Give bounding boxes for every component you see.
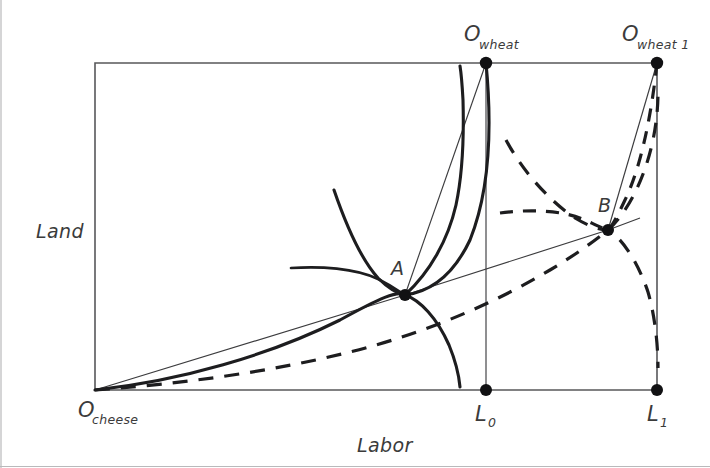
tick-l1-symbol: L xyxy=(647,402,659,426)
point-a-label: A xyxy=(389,257,404,279)
edgeworth-box-figure: Land Labor O cheese O wheat O wheat 1 L … xyxy=(0,0,710,468)
ray-owheat1-to-b xyxy=(608,63,657,230)
cheese-isoquant-a xyxy=(95,66,463,390)
ray-owheat-to-a xyxy=(405,63,486,295)
tick-l0-subscript: 0 xyxy=(488,415,496,430)
owheat-node-dot xyxy=(480,57,492,69)
tick-l0-symbol: L xyxy=(475,402,487,426)
wheat-isoquant-b xyxy=(506,140,658,368)
l0-node-dot xyxy=(480,384,492,396)
y-axis-label: Land xyxy=(36,220,84,242)
cheese-isoquant-a-left-branch xyxy=(291,267,405,295)
edgeworth-box-outline xyxy=(95,63,657,390)
x-axis-label: Labor xyxy=(357,434,414,456)
origin-cheese-subscript: cheese xyxy=(92,412,138,427)
point-b-node-dot xyxy=(602,224,614,236)
point-b-label: B xyxy=(598,194,611,216)
l1-node-dot xyxy=(651,384,663,396)
origin-wheat1-subscript: wheat 1 xyxy=(637,37,689,52)
origin-wheat-subscript: wheat xyxy=(479,37,520,52)
diagram-canvas: Land Labor O cheese O wheat O wheat 1 L … xyxy=(0,0,710,468)
owheat1-node-dot xyxy=(651,57,663,69)
tick-l1-subscript: 1 xyxy=(660,415,668,430)
point-a-node-dot xyxy=(399,289,411,301)
cheese-isoquant-b-left-branch xyxy=(500,211,608,230)
